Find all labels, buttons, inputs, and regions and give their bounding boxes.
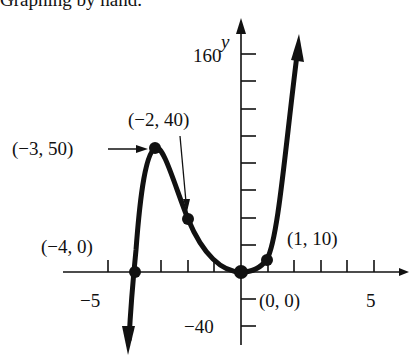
- point-1-10: [261, 254, 273, 266]
- annotation-arrow-m2-40: [180, 136, 186, 202]
- point-label-1-10: (1, 10): [287, 228, 338, 250]
- arrowhead-icon: [136, 145, 148, 153]
- xtick-label-m5: −5: [80, 290, 100, 311]
- point-m3-50: [149, 142, 161, 154]
- y-axis: [236, 18, 256, 345]
- ytick-label-m40: −40: [184, 316, 214, 337]
- point-label-0-0: (0, 0): [259, 290, 300, 312]
- xtick-label-5: 5: [366, 290, 376, 311]
- point-m4-0: [129, 266, 141, 278]
- point-m2-40: [182, 213, 194, 225]
- chart: y 160 −40 −5 5 (−3, 50) (−2, 40) (−4, 0)…: [0, 0, 409, 355]
- point-label-m3-50: (−3, 50): [12, 138, 73, 160]
- curve-down-arrow-icon: [122, 326, 135, 355]
- y-ticks: [241, 54, 256, 326]
- ytick-label-160: 160: [193, 45, 222, 66]
- point-0-0: [234, 265, 248, 279]
- y-axis-arrow-icon: [236, 18, 246, 34]
- point-label-m2-40: (−2, 40): [128, 109, 189, 131]
- x-axis-arrow-icon: [399, 268, 409, 276]
- point-label-m4-0: (−4, 0): [41, 236, 93, 258]
- curve-up-arrow-icon: [291, 34, 304, 62]
